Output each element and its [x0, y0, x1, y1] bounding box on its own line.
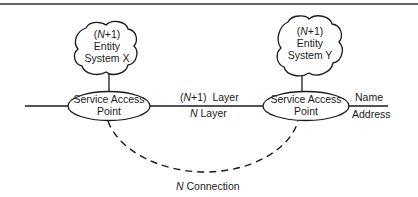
entity-system-x: (N+1) Entity System X: [75, 22, 137, 92]
lower-layer-label: N Layer: [190, 107, 227, 119]
upper-layer-label: (N+1) Layer: [180, 91, 239, 103]
sap-right-line2: Point: [294, 105, 318, 117]
service-access-point-right: Service Access Point: [263, 92, 349, 121]
address-label: Address: [352, 108, 391, 120]
svg-text:(N+1): (N+1): [94, 28, 121, 40]
entity-system-y: (N+1) Entity System Y: [277, 16, 342, 92]
entity-x-line2: Entity: [94, 40, 121, 52]
entity-y-line2: Entity: [297, 37, 324, 49]
entity-x-line3: System X: [85, 52, 130, 64]
name-label: Name: [355, 91, 383, 103]
sap-left-line1: Service Access: [73, 93, 144, 105]
entity-x-line1-rest: +1): [105, 28, 120, 40]
osi-service-access-diagram: (N+1) Entity System X (N+1) Entity Syste…: [0, 0, 418, 197]
n-connection-label: N Connection: [176, 180, 240, 192]
svg-text:(N+1): (N+1): [297, 25, 324, 37]
n-connection-dashed-curve: [108, 121, 298, 172]
entity-y-line1-rest: +1): [308, 25, 323, 37]
service-access-point-left: Service Access Point: [68, 92, 150, 121]
entity-y-line3: System Y: [288, 49, 333, 61]
sap-left-line2: Point: [97, 105, 121, 117]
sap-right-line1: Service Access: [270, 93, 341, 105]
